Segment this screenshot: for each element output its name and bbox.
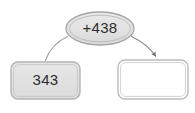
diagram-canvas: 343 +438 [0,0,195,113]
output-node-outer-border [118,60,188,99]
operation-to-output-connector [132,37,156,57]
input-node[interactable]: 343 [11,62,80,99]
output-node[interactable] [118,60,188,99]
function-machine-diagram: 343 +438 [0,0,195,113]
input-to-operation-connector [46,37,68,61]
operation-node-label: +438 [83,19,118,36]
operation-node[interactable]: +438 [66,12,134,45]
input-node-label: 343 [33,71,59,88]
